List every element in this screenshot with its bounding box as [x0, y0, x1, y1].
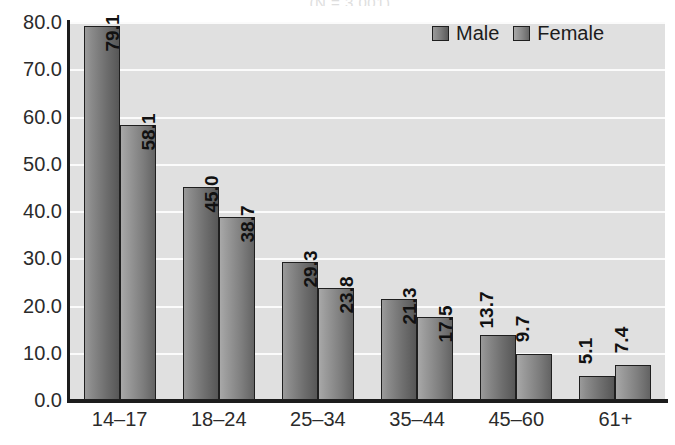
- bar-male[interactable]: 13.7: [480, 335, 516, 400]
- y-tick-label: 20.0: [0, 294, 62, 317]
- bar-value-label: 45.0: [201, 176, 223, 213]
- x-tick-label: 61+: [598, 408, 632, 431]
- bar-female[interactable]: 17.5: [417, 317, 453, 400]
- bar-female[interactable]: 58.1: [120, 125, 156, 400]
- bar-female[interactable]: 7.4: [615, 365, 651, 400]
- bar-value-label: 58.1: [138, 114, 160, 151]
- bar-male[interactable]: 45.0: [183, 187, 219, 400]
- bar-male[interactable]: 21.3: [381, 299, 417, 400]
- bar-value-label: 38.7: [237, 206, 259, 243]
- y-tick-label: 70.0: [0, 58, 62, 81]
- x-tick-label: 35–44: [389, 408, 445, 431]
- bar-value-label: 5.1: [575, 338, 597, 364]
- x-tick-label: 25–34: [290, 408, 346, 431]
- bar-group: 29.323.8: [282, 22, 354, 400]
- y-tick-label: 30.0: [0, 247, 62, 270]
- legend-label-female: Female: [537, 22, 604, 45]
- x-axis-category-labels: 14–1718–2425–3435–4445–6061+: [70, 408, 665, 440]
- bar-group: 79.158.1: [84, 22, 156, 400]
- bar-female[interactable]: 38.7: [219, 217, 255, 400]
- bar-group: 45.038.7: [183, 22, 255, 400]
- bar-group: 21.317.5: [381, 22, 453, 400]
- y-tick-label: 10.0: [0, 341, 62, 364]
- x-tick-label: 18–24: [191, 408, 247, 431]
- legend-swatch-male-icon: [432, 26, 449, 41]
- legend-label-male: Male: [456, 22, 499, 45]
- legend-item-male[interactable]: Male: [432, 22, 499, 45]
- y-tick-label: 50.0: [0, 152, 62, 175]
- legend-swatch-female-icon: [513, 26, 530, 41]
- bar-group: 5.17.4: [579, 22, 651, 400]
- y-axis-tick-labels: 80.070.060.050.040.030.020.010.00.0: [0, 0, 62, 445]
- bars-layer: 79.158.145.038.729.323.821.317.513.79.75…: [70, 22, 665, 400]
- bar-value-label: 7.4: [611, 327, 633, 353]
- bar-male[interactable]: 79.1: [84, 26, 120, 400]
- bar-value-label: 23.8: [336, 276, 358, 313]
- bar-female[interactable]: 23.8: [318, 288, 354, 400]
- y-tick-label: 60.0: [0, 105, 62, 128]
- legend: Male Female: [432, 21, 604, 45]
- y-tick-label: 80.0: [0, 11, 62, 34]
- x-tick-label: 14–17: [92, 408, 148, 431]
- bar-female[interactable]: 9.7: [516, 354, 552, 400]
- bar-value-label: 13.7: [476, 292, 498, 329]
- bar-value-label: 17.5: [435, 306, 457, 343]
- cropped-title-remnant: (N = 3,001): [250, 0, 450, 6]
- bar-group: 13.79.7: [480, 22, 552, 400]
- bar-value-label: 79.1: [102, 15, 124, 52]
- bar-male[interactable]: 5.1: [579, 376, 615, 400]
- bar-male[interactable]: 29.3: [282, 262, 318, 400]
- bar-value-label: 9.7: [512, 316, 534, 342]
- bar-chart: (N = 3,001) 80.070.060.050.040.030.020.0…: [0, 0, 675, 445]
- x-tick-label: 45–60: [488, 408, 544, 431]
- y-tick-label: 40.0: [0, 200, 62, 223]
- bar-value-label: 29.3: [300, 250, 322, 287]
- legend-item-female[interactable]: Female: [513, 22, 604, 45]
- y-tick-label: 0.0: [0, 389, 62, 412]
